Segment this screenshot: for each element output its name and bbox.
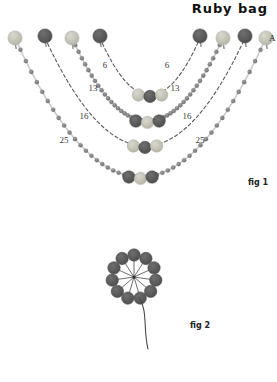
chain-bead: [62, 123, 66, 127]
chain-bead: [175, 106, 179, 110]
chain-bead: [117, 171, 121, 175]
chain-bead: [166, 168, 170, 172]
chain-bead: [83, 62, 87, 66]
count-label-6: 6: [103, 60, 108, 70]
count-label-25: 25: [60, 135, 70, 145]
cluster-bead-dark: [123, 171, 135, 183]
cluster-bead-light: [141, 116, 153, 128]
chain-bead: [103, 92, 107, 96]
rosette-bead: [106, 274, 118, 286]
chain-bead: [191, 88, 195, 92]
fig1-count-labels-group: A66131316162525: [60, 33, 277, 145]
chain-bead: [220, 116, 224, 120]
chain-bead: [248, 70, 252, 74]
beadwork-illustration: A66131316162525: [0, 0, 276, 382]
chain-bead: [242, 80, 246, 84]
chain-bead: [188, 92, 192, 96]
chain-bead: [211, 56, 215, 60]
chain-bead: [231, 99, 235, 103]
rosette-bead: [122, 292, 134, 304]
cluster-bead-dark: [146, 171, 158, 183]
chain-bead: [40, 90, 44, 94]
chain-bead: [95, 158, 99, 162]
chain-bead: [209, 131, 213, 135]
chain-bead: [90, 74, 94, 78]
cluster-bead-light: [150, 140, 162, 152]
chain-bead: [182, 158, 186, 162]
count-label-16: 16: [183, 111, 193, 121]
top-anchor-bead-light: [8, 31, 22, 45]
chain-bead: [35, 80, 39, 84]
chain-bead: [106, 96, 110, 100]
end-label-a: A: [269, 33, 276, 43]
top-anchor-bead-light: [65, 31, 79, 45]
count-label-13: 13: [89, 83, 99, 93]
count-label-6: 6: [165, 60, 170, 70]
chain-bead: [188, 154, 192, 158]
cluster-bead-dark: [130, 115, 142, 127]
chain-bead: [46, 99, 50, 103]
chain-bead: [18, 48, 22, 52]
chain-bead: [99, 88, 103, 92]
cluster-bead-dark: [144, 90, 156, 102]
rosette-thread-tail: [139, 297, 148, 349]
chain-bead: [29, 70, 33, 74]
bead-arc-guide-25: [15, 38, 266, 177]
chain-bead: [208, 62, 212, 66]
chain-bead: [106, 165, 110, 169]
chain-bead: [80, 56, 84, 60]
chain-bead: [214, 50, 218, 54]
chain-bead: [84, 149, 88, 153]
top-anchor-bead-dark: [238, 29, 252, 43]
chain-bead: [73, 137, 77, 141]
chain-bead: [51, 108, 55, 112]
chain-bead: [237, 90, 241, 94]
chain-bead: [205, 68, 209, 72]
chain-bead: [193, 149, 197, 153]
chain-bead: [226, 108, 230, 112]
chain-bead: [258, 48, 262, 52]
chain-bead: [160, 171, 164, 175]
thread-arc-6: [100, 38, 200, 95]
rosette-bead: [144, 285, 156, 297]
chain-bead: [78, 143, 82, 147]
chain-bead: [100, 162, 104, 166]
cluster-bead-dark: [153, 115, 165, 127]
chain-bead: [182, 100, 186, 104]
chain-bead: [24, 59, 28, 63]
chain-bead: [204, 137, 208, 141]
top-anchor-bead-light: [216, 31, 230, 45]
figure-1-caption: fig 1: [248, 178, 268, 187]
chain-bead: [77, 50, 81, 54]
fig1-top-beads-group: [8, 29, 273, 49]
count-label-13: 13: [171, 83, 181, 93]
chain-bead: [185, 96, 189, 100]
chain-bead: [89, 154, 93, 158]
chain-bead: [215, 123, 219, 127]
cluster-bead-light: [132, 89, 144, 101]
fig1-arcs-group: [13, 36, 268, 179]
fig1-clusters-group: [123, 89, 168, 185]
chain-bead: [113, 103, 117, 107]
cluster-bead-dark: [139, 141, 151, 153]
chain-bead: [178, 103, 182, 107]
cluster-bead-light: [127, 140, 139, 152]
rosette-bead: [111, 285, 123, 297]
chain-bead: [198, 79, 202, 83]
top-anchor-bead-dark: [93, 29, 107, 43]
chain-bead: [171, 165, 175, 169]
diagram-canvas: Ruby bag A66131316162525 fig 1 fig 2: [0, 0, 276, 382]
rosette-bead: [150, 274, 162, 286]
count-label-25: 25: [196, 135, 206, 145]
rosette-center-knot: [133, 276, 136, 279]
rosette-bead: [128, 249, 140, 261]
fig2-rosette-group: [106, 249, 162, 349]
chain-bead: [253, 59, 257, 63]
cluster-bead-light: [134, 172, 146, 184]
chain-bead: [57, 116, 61, 120]
chain-bead: [201, 74, 205, 78]
rosette-bead: [116, 252, 128, 264]
rosette-bead: [148, 262, 160, 274]
count-label-16: 16: [80, 111, 90, 121]
chain-bead: [111, 168, 115, 172]
